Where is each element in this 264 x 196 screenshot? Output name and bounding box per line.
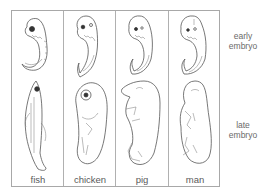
column-label-chicken: chicken	[64, 174, 116, 185]
row-label-early-embryo: early embryo	[222, 31, 264, 51]
pig-late-embryo	[116, 73, 168, 173]
column-label-fish: fish	[12, 174, 64, 185]
column-label-pig: pig	[116, 174, 168, 185]
row-label-late-line2: embryo	[222, 130, 264, 140]
row-label-early-line2: embryo	[222, 41, 264, 51]
man-late-embryo	[169, 73, 221, 173]
column-label-man: man	[169, 174, 221, 185]
fish-late-embryo	[12, 73, 63, 173]
chicken-late-embryo	[64, 73, 115, 173]
row-label-late-line1: late	[222, 120, 264, 130]
row-label-early-line1: early	[222, 31, 264, 41]
embryo-grid: fish chicken pig man	[11, 10, 220, 187]
row-label-late-embryo: late embryo	[222, 120, 264, 140]
